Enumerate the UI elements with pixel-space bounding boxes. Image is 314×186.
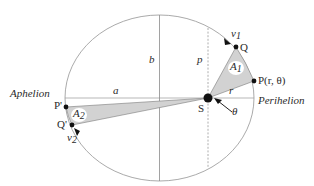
sun-point <box>204 94 213 103</box>
v1-arrow-icon <box>224 38 231 45</box>
point-q <box>234 45 239 50</box>
point-q-prime-label: Q' <box>57 118 67 130</box>
point-p-label: P(r, θ) <box>258 74 286 87</box>
semi-minor-label: b <box>149 53 155 65</box>
point-q-label: Q <box>240 41 248 53</box>
theta-label: θ <box>232 105 238 117</box>
aphelion-label: Aphelion <box>9 87 50 99</box>
semi-major-label: a <box>113 84 119 96</box>
radius-label: r <box>229 84 234 96</box>
theta-arrow-line <box>218 101 232 112</box>
perihelion-label: Perihelion <box>257 94 305 106</box>
point-p-prime-label: P' <box>54 99 62 111</box>
kepler-diagram: Aphelion Perihelion a b p r θ S P(r, θ) … <box>0 0 314 186</box>
sector-a2 <box>66 98 208 125</box>
point-q-prime <box>70 123 75 128</box>
semi-latus-rectum-label: p <box>196 53 203 65</box>
v2-label: v2 <box>67 131 77 145</box>
a1-label: A1 <box>229 60 242 74</box>
a2-label: A2 <box>72 107 85 121</box>
v1-label: v1 <box>231 27 241 41</box>
point-p-prime <box>64 105 69 110</box>
point-p <box>252 79 257 84</box>
sun-label: S <box>198 102 204 114</box>
